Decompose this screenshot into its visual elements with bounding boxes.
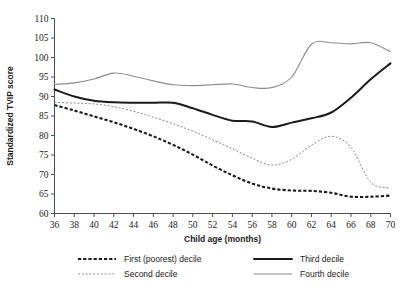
x-tick-label: 62 [307, 220, 317, 230]
chart-container: 6065707580859095100105110363840424446485… [0, 0, 404, 288]
x-tick-label: 52 [208, 220, 218, 230]
x-tick-label: 36 [50, 220, 60, 230]
x-tick-label: 54 [228, 220, 238, 230]
y-tick-label: 110 [35, 14, 49, 24]
y-tick-label: 65 [39, 189, 49, 199]
axes: 6065707580859095100105110363840424446485… [34, 14, 395, 230]
y-tick-label: 85 [39, 111, 49, 121]
x-tick-label: 48 [168, 220, 178, 230]
y-tick-label: 70 [39, 170, 49, 180]
y-axis-title: Standardized TVIP score [5, 66, 15, 166]
line-chart: 6065707580859095100105110363840424446485… [0, 0, 404, 288]
series-group [55, 41, 391, 197]
legend-label-2: Third decile [300, 254, 344, 264]
x-tick-label: 46 [149, 220, 159, 230]
x-tick-label: 42 [109, 220, 119, 230]
legend-label-3: Fourth decile [300, 269, 349, 279]
x-tick-label: 68 [366, 220, 376, 230]
x-tick-label: 66 [346, 220, 356, 230]
x-tick-label: 64 [326, 220, 336, 230]
x-tick-label: 60 [287, 220, 297, 230]
x-tick-label: 38 [70, 220, 80, 230]
x-tick-label: 58 [267, 220, 277, 230]
series-line-2 [55, 63, 391, 127]
x-axis-title: Child age (months) [184, 234, 261, 244]
y-tick-label: 90 [39, 92, 49, 102]
legend-label-0: First (poorest) decile [124, 254, 202, 264]
legend-label-1: Second decile [124, 269, 178, 279]
y-tick-label: 95 [39, 72, 49, 82]
y-tick-label: 75 [39, 150, 49, 160]
y-tick-label: 100 [34, 53, 49, 63]
x-tick-label: 40 [89, 220, 99, 230]
x-tick-label: 70 [386, 220, 396, 230]
x-tick-label: 50 [188, 220, 198, 230]
chart-legend: First (poorest) decileThird decileSecond… [78, 254, 349, 279]
x-tick-label: 44 [129, 220, 139, 230]
series-line-1 [55, 102, 391, 188]
x-tick-label: 56 [247, 220, 257, 230]
y-tick-label: 80 [39, 131, 49, 141]
series-line-3 [55, 41, 391, 88]
y-tick-label: 60 [39, 209, 49, 219]
y-tick-label: 105 [34, 33, 49, 43]
